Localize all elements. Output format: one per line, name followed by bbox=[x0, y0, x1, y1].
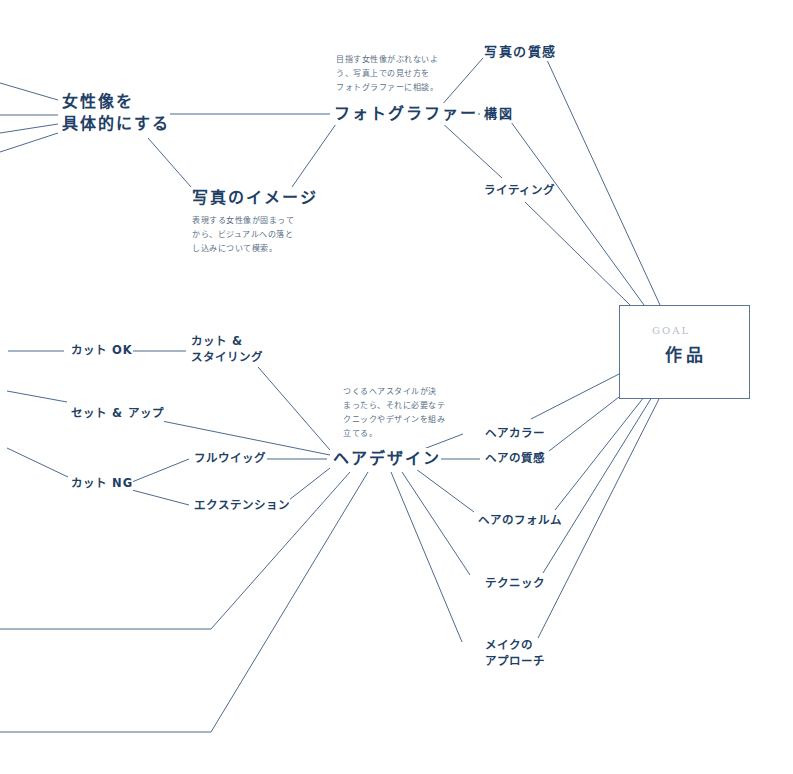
note-line: まったら、それに必要なテ bbox=[343, 399, 445, 413]
node-cut-styling-line1: カット & bbox=[191, 334, 263, 350]
shashin-image-note: 表現する女性像が固まって から、ビジュアルへの落と し込みについて模索。 bbox=[192, 214, 294, 256]
note-line: クニックやデザインを組み bbox=[343, 413, 445, 427]
node-make-approach-line2: アプローチ bbox=[485, 654, 545, 670]
photographer-note: 目指す女性像がぶれないよ う、写真上での見せ方を フォトグラファーに相談。 bbox=[336, 53, 438, 95]
note-line: 目指す女性像がぶれないよ bbox=[336, 53, 438, 67]
node-photographer: フォトグラファー bbox=[334, 103, 478, 125]
node-make-approach-line1: メイクの bbox=[485, 638, 545, 654]
node-lighting: ライティング bbox=[484, 183, 555, 199]
node-cut-ng: カット NG bbox=[71, 476, 133, 492]
note-line: し込みについて模索。 bbox=[192, 242, 294, 256]
goal-label: GOAL bbox=[652, 325, 690, 336]
node-kouzu: 構図 bbox=[484, 105, 513, 123]
node-josei-zou: 女性像を 具体的にする bbox=[62, 91, 170, 134]
node-hair-design: ヘアデザイン bbox=[333, 448, 441, 470]
node-hair-shitsukan: ヘアの質感 bbox=[485, 451, 545, 467]
note-line: う、写真上での見せ方を bbox=[336, 67, 438, 81]
node-full-wig: フルウイッグ bbox=[194, 451, 266, 467]
node-technique: テクニック bbox=[485, 576, 545, 592]
node-extension: エクステンション bbox=[194, 498, 290, 514]
note-line: 表現する女性像が固まって bbox=[192, 214, 294, 228]
node-shashin-shitsukan: 写真の質感 bbox=[484, 43, 557, 61]
node-set-up: セット & アップ bbox=[71, 406, 164, 422]
node-hair-color: ヘアカラー bbox=[485, 426, 545, 442]
node-make-approach: メイクの アプローチ bbox=[485, 638, 545, 669]
node-josei-zou-line1: 女性像を bbox=[62, 91, 170, 113]
note-line: つくるヘアスタイルが決 bbox=[343, 385, 445, 399]
hair-design-note: つくるヘアスタイルが決 まったら、それに必要なテ クニックやデザインを組み 立て… bbox=[343, 385, 445, 441]
note-line: から、ビジュアルへの落と bbox=[192, 228, 294, 242]
node-cut-ok: カット OK bbox=[71, 343, 133, 359]
node-cut-styling-line2: スタイリング bbox=[191, 350, 263, 366]
goal-title: 作品 bbox=[665, 341, 707, 366]
node-hair-form: ヘアのフォルム bbox=[478, 513, 562, 529]
node-shashin-image: 写真のイメージ bbox=[192, 187, 318, 209]
node-cut-styling: カット & スタイリング bbox=[191, 334, 263, 365]
note-line: 立てる。 bbox=[343, 427, 445, 441]
node-josei-zou-line2: 具体的にする bbox=[62, 113, 170, 135]
note-line: フォトグラファーに相談。 bbox=[336, 81, 438, 95]
